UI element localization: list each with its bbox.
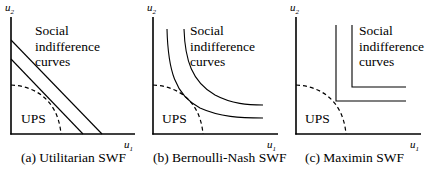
panel-caption: (b) Bernoulli-Nash SWF <box>153 150 287 165</box>
ups-label: UPS <box>162 111 187 126</box>
ups-frontier <box>153 85 203 134</box>
curves-label-line1: Social <box>359 23 393 38</box>
swf-diagram: u2 u1 Social indifference curves UPS (a)… <box>0 0 429 172</box>
panel-caption: (c) Maximin SWF <box>305 150 404 165</box>
curves-label-line2: indifference <box>190 39 255 54</box>
ups-frontier <box>296 85 346 134</box>
x-axis-label: u1 <box>410 138 419 153</box>
curves-label-line1: Social <box>190 23 224 38</box>
curves-label-line3: curves <box>359 54 394 69</box>
y-axis-label: u2 <box>147 1 157 16</box>
panel-maximin: u2 u1 Social indifference curves UPS (c)… <box>290 1 424 165</box>
curves-label-line2: indifference <box>359 39 424 54</box>
curves-label-line3: curves <box>190 54 225 69</box>
ups-label: UPS <box>21 111 46 126</box>
panel-bernoulli-nash: u2 u1 Social indifference curves UPS (b)… <box>147 1 287 165</box>
panel-caption: (a) Utilitarian SWF <box>21 150 126 165</box>
panel-utilitarian: u2 u1 Social indifference curves UPS (a)… <box>5 1 135 165</box>
ups-label: UPS <box>305 111 330 126</box>
curves-label-line2: indifference <box>35 39 100 54</box>
curves-label-line3: curves <box>35 54 70 69</box>
curves-label-line1: Social <box>35 23 69 38</box>
y-axis-label: u2 <box>5 1 15 16</box>
y-axis-label: u2 <box>290 1 300 16</box>
ups-frontier <box>11 85 61 134</box>
